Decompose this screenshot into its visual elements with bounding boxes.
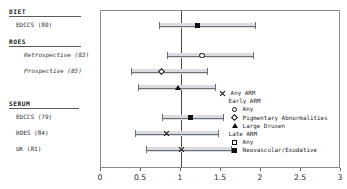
- marker-open-square: [232, 140, 237, 145]
- legend-label: Pigmentary Abnormalities: [243, 114, 328, 122]
- x-axis-tick-label: 2.5: [294, 173, 306, 182]
- x-axis-tick: [140, 168, 141, 171]
- forest-row: [101, 20, 339, 31]
- marker-cross-x: [178, 146, 185, 153]
- x-axis-tick: [100, 168, 101, 171]
- group-heading-rule: [9, 46, 81, 47]
- ci-whisker-lower: [159, 22, 160, 29]
- ci-whisker-lower: [146, 146, 147, 153]
- marker-filled-square: [232, 148, 237, 153]
- ci-whisker-upper: [207, 68, 208, 75]
- group-heading-rule: [9, 108, 79, 109]
- x-axis-tick: [260, 168, 261, 171]
- legend-label: Any: [243, 105, 254, 113]
- legend-label: Any: [243, 138, 254, 146]
- ci-whisker-upper: [215, 84, 216, 91]
- x-axis-tick: [220, 168, 221, 171]
- x-axis-tick-label: 3: [338, 173, 343, 182]
- ci-whisker-upper: [253, 52, 254, 59]
- x-axis-tick: [340, 168, 341, 171]
- ci-whisker-upper: [218, 130, 219, 137]
- legend-label: Neovascular/Exudative: [243, 146, 317, 154]
- confidence-interval-line: [146, 150, 231, 151]
- study-label: EDCCS (79): [16, 113, 52, 120]
- ci-whisker-lower: [131, 68, 132, 75]
- legend-group-label: Early ARM: [229, 97, 261, 105]
- x-axis-tick-label: 1: [178, 173, 183, 182]
- forest-row: [101, 66, 339, 77]
- study-label-column: DIETEDCCS (80)ROESRetrospective (83)Pros…: [0, 0, 100, 189]
- forest-row: [101, 128, 339, 139]
- ci-whisker-lower: [138, 84, 139, 91]
- legend-label: Large Drusen: [243, 122, 286, 130]
- forest-plot-panel: Any ARMEarly ARMAnyPigmentary Abnormalit…: [100, 10, 340, 168]
- group-heading-serum: SERUM: [9, 100, 30, 107]
- ci-whisker-upper: [255, 22, 256, 29]
- marker-filled-triangle: [232, 123, 238, 128]
- confidence-interval-line: [135, 134, 218, 135]
- x-axis: 00.511.522.53: [100, 168, 340, 189]
- x-axis-tick: [180, 168, 181, 171]
- ci-whisker-lower: [162, 114, 163, 121]
- marker-filled-square: [188, 115, 193, 120]
- group-heading-rule: [9, 16, 81, 17]
- marker-filled-triangle: [175, 85, 181, 90]
- marker-open-circle: [199, 53, 204, 58]
- study-label: ROES (84): [16, 129, 49, 136]
- legend-label: Any ARM: [231, 89, 256, 97]
- marker-filled-square: [195, 23, 200, 28]
- study-label: Retrospective (83): [24, 51, 89, 58]
- ci-whisker-lower: [135, 130, 136, 137]
- marker-cross-x: [219, 90, 226, 97]
- x-axis-tick-label: 0: [98, 173, 103, 182]
- study-label: UK (81): [16, 145, 41, 152]
- group-heading-diet: DIET: [9, 8, 26, 15]
- confidence-interval-line: [167, 56, 253, 57]
- study-label: Prospective (85): [24, 67, 82, 74]
- marker-cross-x: [163, 130, 170, 137]
- ci-whisker-lower: [167, 52, 168, 59]
- group-heading-roes: ROES: [9, 38, 26, 45]
- ci-whisker-upper: [223, 114, 224, 121]
- confidence-interval-line: [131, 72, 206, 73]
- legend-group-label: Late ARM: [229, 130, 257, 138]
- study-label: EDCCS (80): [16, 21, 52, 28]
- forest-row: [101, 50, 339, 61]
- x-axis-tick-label: 0.5: [134, 173, 146, 182]
- x-axis-tick-label: 1.5: [214, 173, 226, 182]
- x-axis-tick: [300, 168, 301, 171]
- confidence-interval-line: [159, 26, 255, 27]
- x-axis-tick-label: 2: [258, 173, 263, 182]
